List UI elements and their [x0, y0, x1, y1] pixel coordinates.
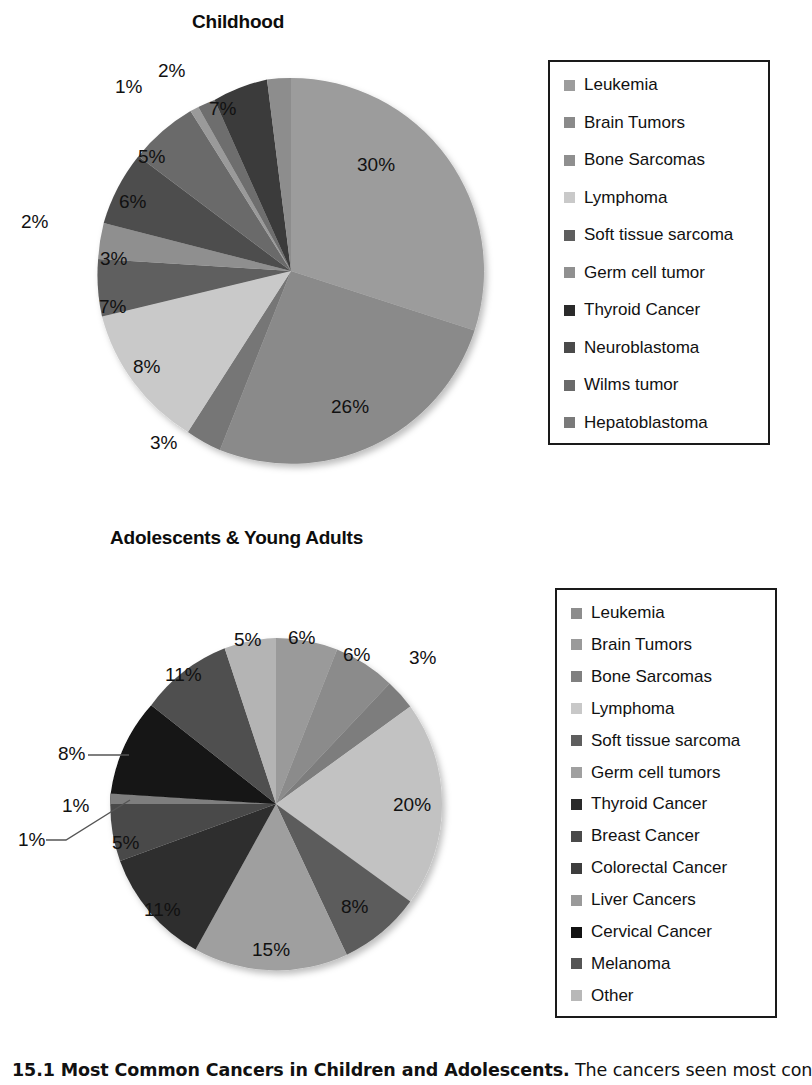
pie1-label-30: 30%	[357, 155, 395, 174]
pie2-label-5a: 5%	[234, 630, 261, 649]
caption-number: 15.1	[12, 1060, 55, 1080]
legend-label: Thyroid Cancer	[591, 794, 707, 814]
legend-label: Melanoma	[591, 954, 670, 974]
pie1-label-2: 2%	[158, 61, 185, 80]
legend-item[interactable]: Bone Sarcomas	[571, 667, 765, 687]
legend-item[interactable]: Brain Tumors	[571, 635, 765, 655]
legend-swatch-icon	[571, 927, 582, 938]
legend-swatch-icon	[564, 380, 575, 391]
legend-swatch-icon	[571, 831, 582, 842]
legend-item[interactable]: Neuroblastoma	[564, 338, 758, 358]
pie-svg-childhood	[95, 75, 487, 467]
legend-label: Brain Tumors	[584, 113, 685, 133]
pie2-label-20: 20%	[393, 795, 431, 814]
legend-ayas: Leukemia Brain Tumors Bone Sarcomas Lymp…	[555, 588, 777, 1018]
legend-label: Breast Cancer	[591, 826, 700, 846]
legend-swatch-icon	[571, 639, 582, 650]
legend-item[interactable]: Thyroid Cancer	[564, 300, 758, 320]
legend-swatch-icon	[564, 80, 575, 91]
legend-item[interactable]: Hepatoblastoma	[564, 413, 758, 433]
pie1-label-26: 26%	[331, 397, 369, 416]
chart-title-ayas: Adolescents & Young Adults	[110, 527, 363, 549]
legend-item[interactable]: Wilms tumor	[564, 375, 758, 395]
pie2-label-11b: 11%	[144, 900, 181, 919]
pie1-label-2-outer: 2%	[21, 212, 48, 231]
legend-swatch-icon	[571, 703, 582, 714]
pie1-label-5: 5%	[138, 147, 165, 166]
pie2-label-5b: 5%	[112, 833, 139, 852]
legend-items-childhood: Leukemia Brain Tumors Bone Sarcomas Lymp…	[550, 62, 768, 443]
legend-item[interactable]: Lymphoma	[564, 188, 758, 208]
legend-swatch-icon	[571, 863, 582, 874]
pie1-label-7b: 7%	[209, 99, 236, 118]
pie-chart-childhood	[95, 75, 487, 467]
legend-label: Other	[591, 986, 634, 1006]
legend-swatch-icon	[571, 767, 582, 778]
legend-label: Hepatoblastoma	[584, 413, 708, 433]
pie-slices-childhood	[97, 78, 484, 464]
legend-swatch-icon	[564, 192, 575, 203]
legend-swatch-icon	[571, 608, 582, 619]
legend-label: Cervical Cancer	[591, 922, 712, 942]
legend-swatch-icon	[564, 230, 575, 241]
legend-swatch-icon	[564, 342, 575, 353]
chart-title-childhood: Childhood	[192, 11, 284, 33]
legend-label: Neuroblastoma	[584, 338, 699, 358]
legend-item[interactable]: Thyroid Cancer	[571, 794, 765, 814]
legend-label: Leukemia	[584, 75, 658, 95]
legend-label: Soft tissue sarcoma	[584, 225, 733, 245]
legend-item[interactable]: Germ cell tumors	[571, 763, 765, 783]
caption-title: Most Common Cancers in Children and Adol…	[61, 1060, 570, 1080]
legend-label: Liver Cancers	[591, 890, 696, 910]
pie2-label-3: 3%	[409, 648, 436, 667]
pie1-label-7a: 7%	[99, 297, 126, 316]
legend-label: Leukemia	[591, 603, 665, 623]
legend-item[interactable]: Brain Tumors	[564, 113, 758, 133]
legend-swatch-icon	[564, 267, 575, 278]
legend-item[interactable]: Soft tissue sarcoma	[564, 225, 758, 245]
pie2-label-1a: 1%	[62, 796, 89, 815]
legend-swatch-icon	[571, 990, 582, 1001]
legend-swatch-icon	[564, 155, 575, 166]
legend-item[interactable]: Melanoma	[571, 954, 765, 974]
legend-swatch-icon	[564, 117, 575, 128]
legend-item[interactable]: Leukemia	[571, 603, 765, 623]
legend-item[interactable]: Liver Cancers	[571, 890, 765, 910]
legend-label: Lymphoma	[591, 699, 674, 719]
legend-label: Colorectal Cancer	[591, 858, 727, 878]
legend-label: Wilms tumor	[584, 375, 678, 395]
legend-item[interactable]: Soft tissue sarcoma	[571, 731, 765, 751]
legend-item[interactable]: Germ cell tumor	[564, 263, 758, 283]
legend-item[interactable]: Cervical Cancer	[571, 922, 765, 942]
legend-item[interactable]: Breast Cancer	[571, 826, 765, 846]
legend-label: Lymphoma	[584, 188, 667, 208]
pie1-label-3a: 3%	[100, 249, 127, 268]
figure-caption: 15.1 Most Common Cancers in Children and…	[12, 1060, 812, 1080]
legend-item[interactable]: Other	[571, 986, 765, 1006]
legend-items-ayas: Leukemia Brain Tumors Bone Sarcomas Lymp…	[557, 590, 775, 1016]
legend-item[interactable]: Leukemia	[564, 75, 758, 95]
pie1-label-8: 8%	[133, 357, 160, 376]
pie1-label-6: 6%	[119, 192, 146, 211]
legend-swatch-icon	[571, 671, 582, 682]
legend-label: Germ cell tumors	[591, 763, 720, 783]
legend-childhood: Leukemia Brain Tumors Bone Sarcomas Lymp…	[548, 60, 770, 445]
pie1-label-1: 1%	[115, 77, 142, 96]
pie2-label-11a: 11%	[165, 665, 202, 684]
legend-item[interactable]: Bone Sarcomas	[564, 150, 758, 170]
legend-item[interactable]: Colorectal Cancer	[571, 858, 765, 878]
legend-label: Bone Sarcomas	[584, 150, 705, 170]
pie2-label-1b: 1%	[18, 830, 45, 849]
legend-swatch-icon	[571, 958, 582, 969]
legend-label: Germ cell tumor	[584, 263, 705, 283]
pie2-label-8b: 8%	[58, 744, 85, 763]
legend-label: Thyroid Cancer	[584, 300, 700, 320]
pie2-label-8a: 8%	[341, 897, 368, 916]
legend-label: Brain Tumors	[591, 635, 692, 655]
pie2-label-15: 15%	[252, 940, 290, 959]
legend-item[interactable]: Lymphoma	[571, 699, 765, 719]
legend-swatch-icon	[571, 735, 582, 746]
legend-swatch-icon	[571, 895, 582, 906]
legend-label: Bone Sarcomas	[591, 667, 712, 687]
